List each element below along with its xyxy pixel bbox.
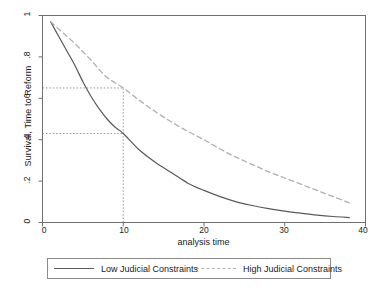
x-axis-title: analysis time [42, 237, 365, 247]
y-tick-label-02: .2 [22, 171, 32, 189]
y-tick-1: 1 [18, 9, 36, 21]
legend-label-high: High Judicial Constraints [243, 264, 342, 274]
x-tick-label-30: 30 [271, 225, 297, 235]
x-tick-label-20: 20 [191, 225, 217, 235]
legend-entry-low: Low Judicial Constraints [54, 259, 198, 278]
plot-canvas [0, 0, 387, 292]
x-tick-label-0: 0 [31, 225, 57, 235]
plot-frame [43, 16, 366, 223]
survival-plot-figure: Survival, Time to Reform 1 .8 .6 .4 .2 0… [0, 0, 387, 292]
series-layer [51, 22, 350, 218]
x-tick-label-40: 40 [350, 225, 376, 235]
x-tick-label-10: 10 [111, 225, 137, 235]
legend: Low Judicial Constraints High Judicial C… [47, 258, 331, 279]
y-tick-label-1: 1 [22, 5, 32, 23]
series-line-low [51, 22, 350, 218]
legend-key-dashed-icon [196, 264, 236, 274]
reference-lines-layer [43, 88, 124, 223]
y-tick-04: .4 [18, 133, 36, 145]
y-tick-02: .2 [18, 175, 36, 187]
y-tick-label-08: .8 [22, 46, 32, 64]
y-tick-08: .8 [18, 50, 36, 62]
y-tick-label-04: .4 [22, 129, 32, 147]
y-tick-label-06: .6 [22, 88, 32, 106]
legend-key-solid-icon [54, 264, 94, 274]
y-tick-06: .6 [18, 92, 36, 104]
axes-layer [39, 16, 366, 227]
legend-label-low: Low Judicial Constraints [101, 264, 198, 274]
legend-entry-high: High Judicial Constraints [196, 259, 342, 278]
series-line-high [51, 22, 350, 203]
